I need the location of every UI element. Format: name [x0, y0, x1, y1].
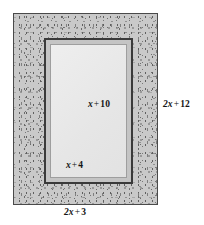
- label-outer-width-variable: 2x: [64, 207, 74, 217]
- label-outer-height: 2x+12: [163, 99, 190, 109]
- geometry-figure: x+10 x+4 2x+12 2x+3: [0, 0, 204, 225]
- label-outer-height-variable: 2x: [163, 99, 173, 109]
- label-inner-height: x+10: [88, 99, 110, 109]
- label-outer-width-number: 3: [81, 207, 86, 217]
- label-inner-width-number: 4: [78, 160, 83, 170]
- label-inner-width: x+4: [66, 160, 83, 170]
- inner-picture-outline: [44, 38, 133, 184]
- inner-picture-mat: [46, 40, 131, 182]
- label-outer-width: 2x+3: [64, 207, 86, 217]
- inner-picture-field: [50, 44, 127, 178]
- outer-frame-rectangle: [13, 13, 158, 205]
- label-outer-height-number: 12: [180, 99, 190, 109]
- label-inner-height-number: 10: [100, 99, 110, 109]
